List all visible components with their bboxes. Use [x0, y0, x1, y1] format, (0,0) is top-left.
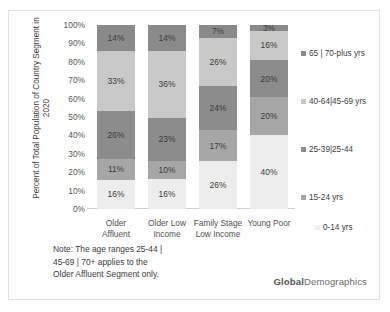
bar-segment[interactable]: 20% — [250, 97, 288, 134]
legend-item-label: 15-24 yrs — [309, 193, 343, 202]
bar-segment-label: 23% — [159, 134, 176, 144]
y-tick-label: 70% — [68, 75, 85, 85]
bar-segment[interactable]: 33% — [97, 51, 135, 112]
bar-segment[interactable]: 16% — [97, 180, 135, 209]
x-axis-category-label: Young Poor — [238, 218, 300, 229]
chart-note-line-3: Older Affluent Segment only. — [53, 268, 243, 281]
y-tick-label: 0% — [73, 204, 85, 214]
y-tick-label: 30% — [68, 149, 85, 159]
chart-note-line-1: Note: The age ranges 25-44 | — [53, 243, 243, 256]
stacked-bar[interactable]: 14%36%23%10%16%Older LowIncome — [148, 25, 186, 209]
bar-segment-label: 14% — [159, 33, 176, 43]
bar-segment-label: 20% — [261, 74, 278, 84]
legend-item[interactable]: 25-39|25-44 — [301, 145, 353, 154]
legend-item[interactable]: 40-64|45-69 yrs — [301, 97, 366, 106]
y-axis-title-line-1: Percent of Total Population of Country S… — [32, 17, 42, 198]
bar-segment[interactable]: 24% — [199, 86, 237, 130]
legend-swatch-icon — [301, 99, 306, 104]
bar-segment-label: 14% — [108, 33, 125, 43]
bar-segment[interactable]: 10% — [148, 161, 186, 180]
legend-swatch-icon — [301, 147, 306, 152]
bar-segment-label: 17% — [210, 141, 227, 151]
bar-segment[interactable]: 26% — [199, 161, 237, 209]
bar-segment[interactable]: 36% — [148, 51, 186, 118]
y-tick-label: 10% — [68, 186, 85, 196]
bar-segment-label: 40% — [261, 167, 278, 177]
y-tick-label: 20% — [68, 167, 85, 177]
x-axis-category-line: Young Poor — [238, 218, 300, 229]
bar-segment[interactable]: 40% — [250, 135, 288, 209]
chart-container: Percent of Total Population of Country S… — [8, 10, 380, 300]
legend-swatch-icon — [301, 195, 306, 200]
bar-segment[interactable]: 11% — [97, 159, 135, 179]
bar-segment-label: 10% — [159, 165, 176, 175]
legend-item[interactable]: 0-14 yrs — [315, 223, 353, 232]
bar-segment-label: 26% — [210, 180, 227, 190]
legend-item-label: 65 | 70-plus yrs — [309, 49, 365, 58]
bar-segment-label: 26% — [210, 57, 227, 67]
chart-note: Note: The age ranges 25-44 | 45-69 | 70+… — [53, 243, 243, 281]
plot-area: 0%10%20%30%40%50%60%70%80%90%100% 14%33%… — [91, 25, 295, 209]
bar-segment-label: 33% — [108, 76, 125, 86]
y-tick-label: 80% — [68, 57, 85, 67]
bar-segment-label: 26% — [108, 130, 125, 140]
y-tick-label: 50% — [68, 112, 85, 122]
bar-segment[interactable]: 14% — [97, 25, 135, 51]
stacked-bar[interactable]: 14%33%26%11%16%OlderAffluent — [97, 25, 135, 209]
brand-regular: Demographics — [304, 276, 367, 287]
bar-segment-label: 36% — [159, 79, 176, 89]
legend-swatch-icon — [301, 51, 306, 56]
y-axis-title: Percent of Total Population of Country S… — [25, 13, 59, 203]
stacked-bar[interactable]: 3%16%20%20%40%Young Poor — [250, 25, 288, 209]
y-tick-label: 40% — [68, 130, 85, 140]
bar-segment[interactable]: 26% — [97, 111, 135, 159]
bar-segment[interactable]: 16% — [250, 31, 288, 61]
legend-item-label: 25-39|25-44 — [309, 145, 353, 154]
legend-item[interactable]: 65 | 70-plus yrs — [301, 49, 365, 58]
chart-note-line-2: 45-69 | 70+ applies to the — [53, 256, 243, 269]
bar-segment[interactable]: 16% — [148, 179, 186, 209]
bar-segment-label: 16% — [261, 40, 278, 50]
bar-segment[interactable]: 14% — [148, 25, 186, 51]
y-axis-title-line-2: 2020 — [42, 99, 52, 117]
bar-segment-label: 20% — [261, 111, 278, 121]
bar-segment-label: 11% — [108, 164, 124, 174]
y-tick-label: 90% — [68, 38, 85, 48]
bar-segment-label: 16% — [159, 189, 176, 199]
legend-item-label: 0-14 yrs — [323, 223, 353, 232]
stacked-bar[interactable]: 7%26%24%17%26%Family StageLow Income — [199, 25, 237, 209]
bar-segment[interactable]: 20% — [250, 60, 288, 97]
bar-segment[interactable]: 23% — [148, 118, 186, 161]
bar-segment[interactable]: 7% — [199, 25, 237, 38]
legend-swatch-icon — [315, 225, 320, 230]
y-tick-label: 60% — [68, 94, 85, 104]
legend: 65 | 70-plus yrs40-64|45-69 yrs25-39|25-… — [301, 25, 385, 225]
bar-segment-label: 7% — [212, 26, 224, 36]
bar-segment[interactable]: 17% — [199, 130, 237, 161]
x-axis-category-line: Low Income — [187, 229, 249, 240]
bar-segment[interactable]: 26% — [199, 38, 237, 86]
bar-segment-label: 24% — [210, 103, 227, 113]
legend-item[interactable]: 15-24 yrs — [301, 193, 343, 202]
brand-bold: Global — [273, 276, 303, 287]
legend-item-label: 40-64|45-69 yrs — [309, 97, 366, 106]
brand-logo: GlobalDemographics — [273, 276, 367, 287]
bar-segment-label: 16% — [108, 189, 125, 199]
y-tick-label: 100% — [64, 20, 85, 30]
